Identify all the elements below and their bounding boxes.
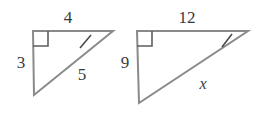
triangles-drawing (0, 0, 266, 115)
right-triangle (137, 31, 248, 103)
geometry-figure: 4 3 5 12 9 x (0, 0, 266, 115)
left-triangle-congruence-tick-icon (80, 35, 91, 48)
left-triangle (33, 31, 113, 95)
left-triangle-hypotenuse-label: 5 (78, 66, 87, 83)
right-triangle-left-leg-label: 9 (121, 54, 130, 71)
right-triangle-right-angle-icon (137, 31, 152, 46)
right-triangle-hypotenuse-label: x (199, 76, 206, 92)
right-triangle-top-label: 12 (179, 9, 196, 26)
left-triangle-right-angle-icon (33, 31, 48, 46)
left-triangle-left-leg-label: 3 (17, 54, 26, 71)
right-triangle-outline (137, 31, 248, 103)
left-triangle-top-label: 4 (64, 9, 73, 26)
left-triangle-outline (33, 31, 113, 95)
